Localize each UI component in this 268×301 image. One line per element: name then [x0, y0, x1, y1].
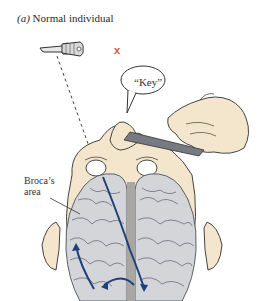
figure-illustration — [0, 0, 268, 301]
absent-marker: x — [114, 44, 120, 56]
sight-line — [57, 56, 92, 155]
broca-label-line2: area — [24, 186, 55, 197]
broca-label-line1: Broca’s — [24, 175, 55, 186]
broca-area-label: Broca’s area — [24, 175, 55, 197]
speech-bubble-icon — [121, 66, 165, 113]
speech-bubble-text: “Key” — [134, 76, 162, 88]
key-icon — [40, 42, 83, 56]
